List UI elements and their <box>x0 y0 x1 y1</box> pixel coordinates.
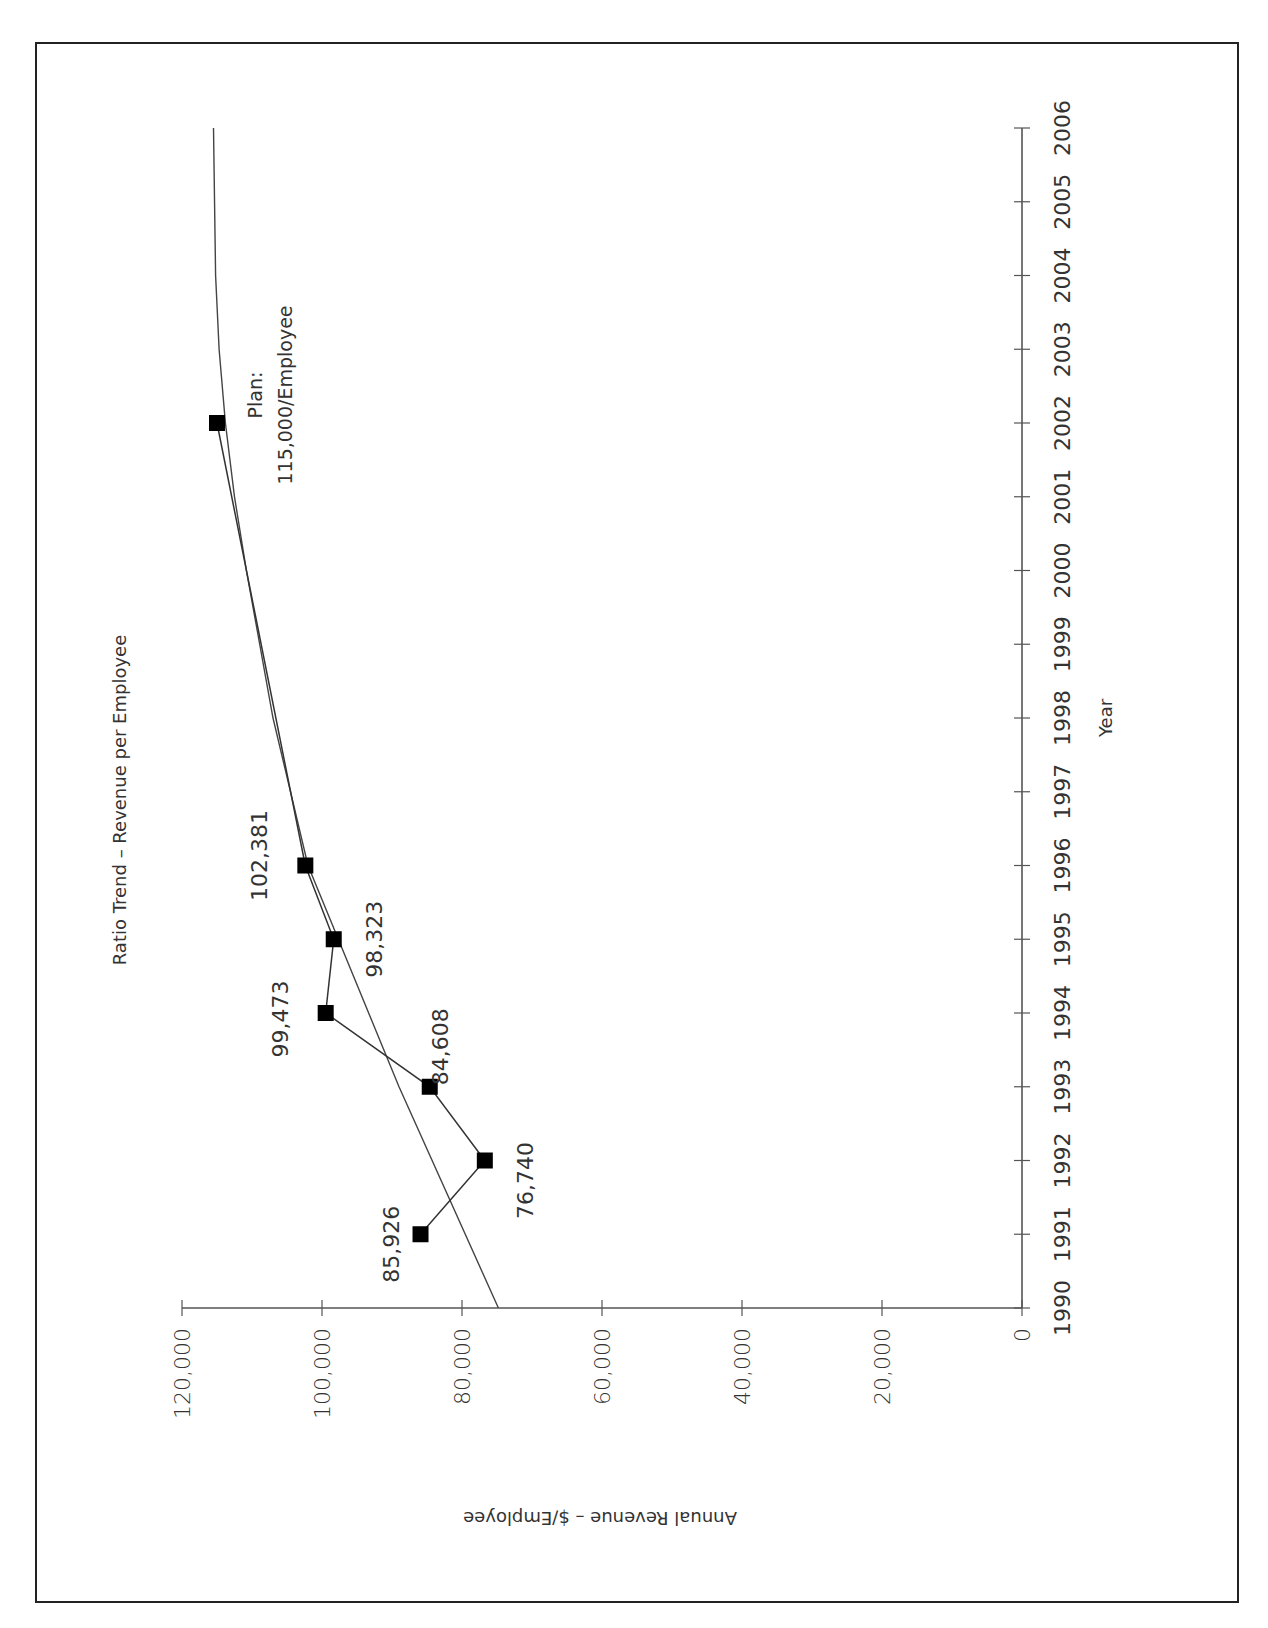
year-tick-label: 2005 <box>1050 174 1075 230</box>
data-labels: 85,92676,74084,60899,47398,323102,381Pla… <box>244 305 538 1282</box>
data-point-label: 85,926 <box>379 1206 404 1283</box>
year-tick-label: 1991 <box>1050 1206 1075 1262</box>
year-tick-label: 2006 <box>1050 100 1075 156</box>
axes: 1990199119921993199419951996199719981999… <box>170 100 1075 1419</box>
data-point-label: 84,608 <box>428 1008 453 1085</box>
year-tick-label: 2002 <box>1050 395 1075 451</box>
year-tick-label: 2003 <box>1050 321 1075 377</box>
square-marker <box>413 1226 429 1242</box>
data-point-label: 102,381 <box>247 810 272 901</box>
year-tick-label: 1995 <box>1050 911 1075 967</box>
value-tick-label: 60,000 <box>590 1328 615 1405</box>
plan-annotation-line1: Plan: <box>244 372 266 419</box>
year-tick-label: 1996 <box>1050 838 1075 894</box>
value-tick-label: 40,000 <box>730 1328 755 1405</box>
data-point-label: 98,323 <box>362 901 387 978</box>
value-tick-label: 80,000 <box>450 1328 475 1405</box>
revenue-per-employee-chart: 1990199119921993199419951996199719981999… <box>0 0 1268 1628</box>
square-marker <box>297 858 313 874</box>
data-point-label: 99,473 <box>268 981 293 1058</box>
year-tick-label: 2004 <box>1050 248 1075 304</box>
square-marker <box>209 415 225 431</box>
value-tick-label: 120,000 <box>170 1328 195 1419</box>
x-axis-title: Year <box>1095 698 1116 738</box>
y-axis-title: Annual Revenue – $/Employee <box>463 1508 737 1529</box>
year-tick-label: 1992 <box>1050 1133 1075 1189</box>
year-tick-label: 2001 <box>1050 469 1075 525</box>
year-tick-label: 2000 <box>1050 543 1075 599</box>
chart-title: Ratio Trend – Revenue per Employee <box>109 635 130 966</box>
square-marker <box>477 1153 493 1169</box>
data-point-label: 76,740 <box>513 1142 538 1219</box>
square-marker <box>326 931 342 947</box>
value-tick-label: 20,000 <box>870 1328 895 1405</box>
plan-annotation-line2: 115,000/Employee <box>274 305 296 484</box>
year-tick-label: 1998 <box>1050 690 1075 746</box>
value-tick-label: 0 <box>1010 1328 1035 1342</box>
value-tick-label: 100,000 <box>310 1328 335 1419</box>
year-tick-label: 1993 <box>1050 1059 1075 1115</box>
year-tick-label: 1990 <box>1050 1280 1075 1336</box>
trend-line <box>214 128 499 1308</box>
year-tick-label: 1997 <box>1050 764 1075 820</box>
trend-polyline <box>214 128 499 1308</box>
year-tick-label: 1999 <box>1050 616 1075 672</box>
year-tick-label: 1994 <box>1050 985 1075 1041</box>
square-marker <box>318 1005 334 1021</box>
